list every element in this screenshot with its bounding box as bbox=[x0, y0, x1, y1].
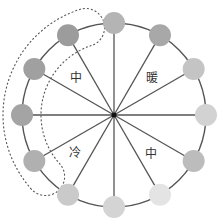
color-node-90 bbox=[195, 104, 217, 126]
label-neutral-lower-right: 中 bbox=[145, 148, 157, 160]
color-node-240 bbox=[23, 150, 45, 172]
color-node-0 bbox=[103, 12, 125, 34]
color-node-60 bbox=[183, 58, 205, 80]
color-node-180 bbox=[103, 196, 125, 218]
color-node-150 bbox=[149, 184, 171, 206]
color-node-300 bbox=[23, 58, 45, 80]
center-hub bbox=[112, 113, 117, 118]
color-node-30 bbox=[149, 24, 171, 46]
color-node-330 bbox=[57, 24, 79, 46]
color-node-270 bbox=[11, 104, 33, 126]
label-neutral-upper-left: 中 bbox=[70, 72, 82, 84]
color-wheel-diagram bbox=[0, 0, 218, 224]
dashed-highlight-group bbox=[3, 9, 105, 196]
color-node-210 bbox=[57, 184, 79, 206]
label-warm: 暖 bbox=[146, 72, 158, 84]
label-cool: 冷 bbox=[69, 147, 81, 159]
color-node-120 bbox=[183, 150, 205, 172]
